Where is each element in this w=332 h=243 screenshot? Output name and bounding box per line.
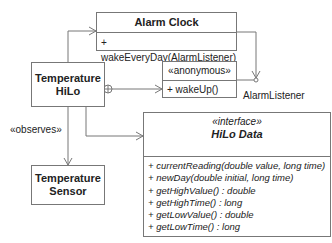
class-temperature-sensor-name-line2: Sensor bbox=[32, 185, 104, 198]
class-temperature-hilo-name-line2: HiLo bbox=[32, 85, 104, 98]
interface-hilo-data: «interface» HiLo Data + currentReading(d… bbox=[143, 112, 331, 237]
operation-current-reading: + currentReading(double value, long time… bbox=[148, 160, 326, 172]
alarm-listener-label: AlarmListener bbox=[243, 90, 305, 101]
class-anonymous-stereotype: «anonymous» bbox=[163, 62, 236, 80]
class-anonymous: «anonymous» + wakeUp() bbox=[162, 61, 237, 98]
association-hilo-to-hilodata bbox=[86, 106, 143, 136]
class-alarm-clock-name: Alarm Clock bbox=[97, 13, 236, 32]
operation-get-high-value: + getHighValue() : double bbox=[148, 185, 326, 197]
observes-label: «observes» bbox=[10, 124, 62, 135]
operation-get-high-time: + getHighTime() : long bbox=[148, 197, 326, 209]
interface-hilo-data-name: HiLo Data bbox=[144, 128, 330, 141]
operation-get-low-time: + getLowTime() : long bbox=[148, 221, 326, 233]
class-temperature-hilo-name-line1: Temperature bbox=[32, 72, 104, 85]
class-alarm-clock: Alarm Clock + wakeEveryDay(AlarmListener… bbox=[96, 12, 237, 51]
operation-get-low-value: + getLowValue() : double bbox=[148, 209, 326, 221]
dependency-alarmclock-to-alarmlistener bbox=[236, 32, 256, 78]
class-alarm-clock-operation: + wakeEveryDay(AlarmListener) bbox=[97, 32, 236, 51]
class-temperature-hilo: Temperature HiLo bbox=[31, 62, 105, 107]
association-hilo-to-alarmclock bbox=[68, 31, 96, 62]
class-temperature-sensor: Temperature Sensor bbox=[31, 165, 105, 205]
class-temperature-sensor-name-line1: Temperature bbox=[32, 172, 104, 185]
operation-new-day: + newDay(double initial, long time) bbox=[148, 172, 326, 184]
class-anonymous-operation: + wakeUp() bbox=[163, 80, 236, 97]
interface-hilo-data-operations: + currentReading(double value, long time… bbox=[144, 156, 330, 237]
interface-hilo-data-stereotype: «interface» bbox=[144, 116, 330, 128]
